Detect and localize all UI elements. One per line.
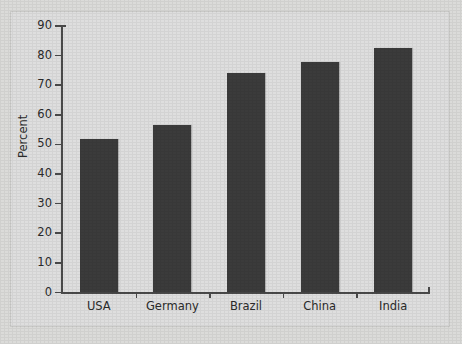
bar: [227, 73, 265, 292]
bar: [374, 48, 412, 292]
y-tick-mark: [55, 25, 61, 27]
y-tick-label: 90: [10, 20, 52, 32]
y-tick-mark: [55, 55, 61, 57]
y-axis-title: Percent: [16, 115, 30, 158]
x-axis-right-cap: [428, 287, 430, 293]
x-tick-label: China: [283, 301, 357, 313]
x-tick-mark: [283, 292, 285, 298]
x-tick-label: USA: [62, 301, 136, 313]
y-tick-mark: [55, 292, 61, 294]
y-tick-label: 10: [10, 257, 52, 269]
bar: [153, 125, 191, 292]
y-axis-top-cap: [61, 25, 66, 27]
y-tick-label: 40: [10, 168, 52, 180]
y-tick-label: 0: [10, 287, 52, 299]
y-tick-label: 20: [10, 227, 52, 239]
y-tick-mark: [55, 144, 61, 146]
bar: [301, 62, 339, 293]
y-tick-label: 70: [10, 79, 52, 91]
y-axis-line: [61, 25, 63, 293]
y-tick-mark: [55, 84, 61, 86]
bar: [80, 139, 118, 293]
x-tick-label: India: [356, 301, 430, 313]
y-tick-label: 60: [10, 109, 52, 121]
x-tick-label: Brazil: [209, 301, 283, 313]
y-tick-mark: [55, 114, 61, 116]
y-tick-label: 80: [10, 50, 52, 62]
x-tick-mark: [209, 292, 211, 298]
y-tick-mark: [55, 203, 61, 205]
y-tick-label: 50: [10, 138, 52, 150]
x-tick-mark: [356, 292, 358, 298]
x-tick-mark: [136, 292, 138, 298]
y-tick-label: 30: [10, 198, 52, 210]
figure-canvas: Percent 0102030405060708090 USAGermanyBr…: [0, 0, 462, 344]
x-tick-label: Germany: [136, 301, 210, 313]
y-tick-mark: [55, 262, 61, 264]
y-tick-mark: [55, 232, 61, 234]
y-tick-mark: [55, 173, 61, 175]
